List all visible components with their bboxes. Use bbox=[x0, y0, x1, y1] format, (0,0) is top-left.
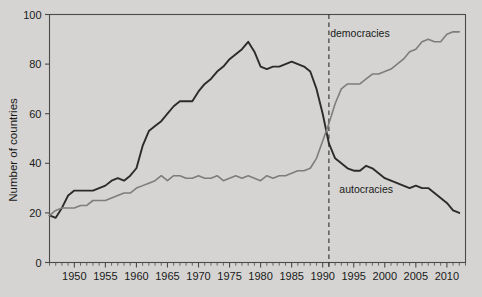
y-tick-label: 20 bbox=[29, 207, 41, 219]
series-label-autocracies: autocracies bbox=[339, 183, 393, 195]
y-tick-label: 100 bbox=[23, 9, 41, 21]
x-tick-label: 2005 bbox=[404, 270, 428, 282]
series-label-democracies: democracies bbox=[330, 27, 390, 39]
y-tick-label: 0 bbox=[35, 257, 41, 269]
plot-frame bbox=[50, 15, 466, 263]
x-tick-label: 1990 bbox=[310, 270, 334, 282]
x-tick-label: 1965 bbox=[155, 270, 179, 282]
x-tick-label: 1960 bbox=[124, 270, 148, 282]
x-tick-label: 1985 bbox=[279, 270, 303, 282]
y-tick-label: 60 bbox=[29, 108, 41, 120]
y-tick-label: 40 bbox=[29, 157, 41, 169]
y-tick-label: 80 bbox=[29, 58, 41, 70]
chart-figure: 020406080100 195019551960196519701975198… bbox=[0, 0, 482, 297]
x-tick-label: 1980 bbox=[248, 270, 272, 282]
x-tick-label: 1950 bbox=[62, 270, 86, 282]
x-tick-label: 2010 bbox=[435, 270, 459, 282]
plot-area bbox=[50, 15, 466, 263]
x-tick-label: 1970 bbox=[186, 270, 210, 282]
x-tick-label: 1975 bbox=[217, 270, 241, 282]
x-tick-label: 1955 bbox=[93, 270, 117, 282]
x-tick-label: 1995 bbox=[341, 270, 365, 282]
y-axis-title: Number of countries bbox=[7, 98, 19, 202]
x-tick-label: 2000 bbox=[373, 270, 397, 282]
